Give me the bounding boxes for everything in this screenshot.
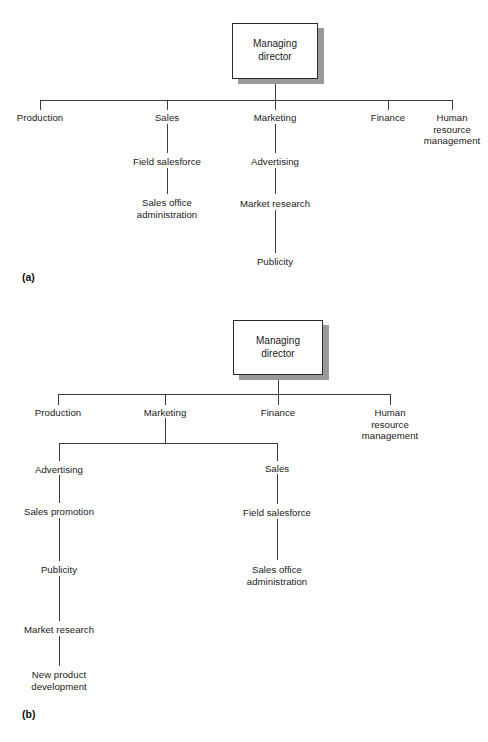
node-a-market-research: Market research	[220, 198, 330, 210]
organisation-charts-figure: Managing director Production Sales Marke…	[0, 0, 488, 742]
figure-caption-b: (b)	[22, 708, 35, 720]
node-a-publicity: Publicity	[230, 256, 320, 268]
node-b-production: Production	[13, 407, 103, 419]
root-box-a: Managing director	[232, 23, 318, 79]
node-a-sales: Sales	[132, 112, 202, 124]
figure-caption-a: (a)	[22, 271, 35, 283]
node-b-human-resource-management: Human resource management	[345, 407, 435, 442]
node-b-finance: Finance	[243, 407, 313, 419]
node-b-publicity: Publicity	[14, 564, 104, 576]
node-a-human-resource-management: Human resource management	[412, 112, 488, 147]
node-a-marketing: Marketing	[230, 112, 320, 124]
node-b-market-research: Market research	[4, 624, 114, 636]
node-b-marketing: Marketing	[120, 407, 210, 419]
node-b-new-product-development: New product development	[9, 669, 109, 692]
node-a-sales-office-administration: Sales office administration	[112, 197, 222, 220]
node-b-sales-office-administration: Sales office administration	[222, 564, 332, 587]
node-b-field-salesforce: Field salesforce	[227, 507, 327, 519]
node-a-finance: Finance	[358, 112, 418, 124]
node-b-advertising: Advertising	[12, 464, 107, 476]
node-a-production: Production	[0, 112, 85, 124]
root-box-b: Managing director	[233, 320, 323, 375]
node-a-advertising: Advertising	[230, 156, 320, 168]
node-a-field-salesforce: Field salesforce	[117, 156, 217, 168]
node-b-sales-promotion: Sales promotion	[4, 506, 114, 518]
node-b-sales: Sales	[242, 463, 312, 475]
